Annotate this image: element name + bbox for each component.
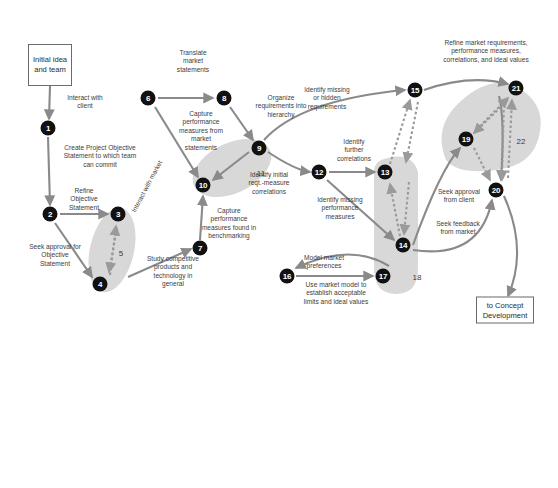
outcomes-legend: OUTCOMES 1Client's wishes about scope, s… xyxy=(0,330,558,488)
node-20: 20 xyxy=(489,183,504,198)
node-17: 17 xyxy=(376,269,391,284)
group-label-22: 22 xyxy=(517,137,526,146)
caption-seek-approval-from-client: Seek approval from client xyxy=(437,188,481,205)
node-15: 15 xyxy=(408,83,423,98)
caption-refine-objective-statement: Refine Objective Statement xyxy=(62,187,106,212)
node-3: 3 xyxy=(111,207,126,222)
caption-refine-market-requirements: Refine market requirements, performance … xyxy=(433,39,539,64)
caption-capture-performance-statements: Capture performance measures from market… xyxy=(175,110,227,152)
caption-translate-market-statements: Translate market statements xyxy=(169,49,217,74)
caption-identify-initial-correlations: Identify initial reqt.-measure correlati… xyxy=(246,171,292,196)
caption-organize-requirements: Organize requirements into hierarchy xyxy=(255,94,307,119)
caption-model-market-preferences: Model market preferences xyxy=(297,254,351,271)
terminal-to-concept-development: to Concept Development xyxy=(476,297,534,324)
node-6: 6 xyxy=(141,91,156,106)
process-flow-diagram: Initial idea and team to Concept Develop… xyxy=(0,0,558,330)
terminal-initial-idea: Initial idea and team xyxy=(28,44,72,86)
node-9: 9 xyxy=(252,141,267,156)
node-1: 1 xyxy=(41,121,56,136)
node-7: 7 xyxy=(193,241,208,256)
caption-seek-approval-objective: Seek approval for Objective Statement xyxy=(27,243,83,268)
caption-study-competitive-products: Study competitive products and technolog… xyxy=(143,255,203,289)
node-2: 2 xyxy=(43,207,58,222)
caption-identify-further-correlations: Identify further correlations xyxy=(334,138,374,163)
caption-use-market-model: Use market model to establish acceptable… xyxy=(300,281,372,306)
node-13: 13 xyxy=(378,165,393,180)
group-label-18: 18 xyxy=(413,273,422,282)
node-16: 16 xyxy=(280,269,295,284)
node-8: 8 xyxy=(217,91,232,106)
node-19: 19 xyxy=(459,132,474,147)
group-label-5: 5 xyxy=(119,249,123,258)
caption-identify-missing-hidden: Identify missing or hidden requirements xyxy=(301,86,353,111)
caption-capture-performance-benchmarking: Capture performance measures found in be… xyxy=(201,207,257,241)
caption-identify-missing-performance: Identify missing performance measures xyxy=(314,196,366,221)
node-21: 21 xyxy=(509,81,524,96)
node-12: 12 xyxy=(312,165,327,180)
node-4: 4 xyxy=(93,277,108,292)
caption-seek-feedback-from-market: Seek feedback from market xyxy=(435,220,481,237)
caption-interact-with-client: Interact with client xyxy=(59,94,111,111)
node-14: 14 xyxy=(396,238,411,253)
caption-create-project-objective: Create Project Objective Statement to wh… xyxy=(63,144,137,169)
node-10: 10 xyxy=(196,178,211,193)
